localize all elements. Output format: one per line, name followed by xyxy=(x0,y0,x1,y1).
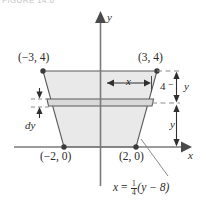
lower-gap-label: y xyxy=(170,119,175,130)
plot-canvas xyxy=(0,0,206,209)
thickness-arrow xyxy=(36,88,42,118)
equation-denominator: 4 xyxy=(131,188,137,197)
y-axis-arrowhead xyxy=(95,11,106,23)
equation-lhs: x xyxy=(113,181,118,193)
point-label-top-right: (3, 4) xyxy=(138,52,163,64)
x-axis-label: x xyxy=(188,150,193,161)
equation-rhs: (y − 8) xyxy=(137,181,169,193)
curve-equation: x=14(y − 8) xyxy=(113,180,169,196)
upper-gap-label-four: 4 xyxy=(160,81,166,92)
point-dot-bottom-right xyxy=(133,144,138,149)
point-label-top-left: (−3, 4) xyxy=(18,52,49,64)
thickness-label: dy xyxy=(25,120,35,131)
point-dot-top-left xyxy=(40,68,45,73)
width-label: x xyxy=(126,76,131,87)
point-label-bottom-right: (2, 0) xyxy=(119,151,144,163)
point-dot-bottom-left xyxy=(61,144,66,149)
equation-equals: = xyxy=(121,181,128,193)
figure-container: FIGURE 14.6 xyxy=(0,0,206,209)
point-label-bottom-left: (−2, 0) xyxy=(40,151,71,163)
y-axis-label: y xyxy=(107,12,112,23)
upper-gap-label-minus: − xyxy=(168,80,174,90)
upper-gap-arrow xyxy=(173,72,179,103)
equation-fraction: 14 xyxy=(131,180,137,196)
equation-leader-line xyxy=(141,139,168,176)
equation-numerator: 1 xyxy=(131,180,137,188)
upper-gap-label-variable: y xyxy=(184,81,189,92)
